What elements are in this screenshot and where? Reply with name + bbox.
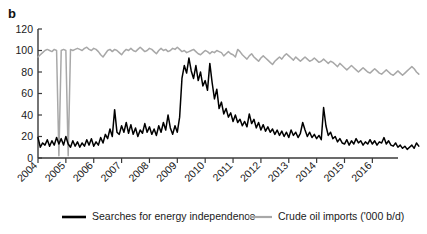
- x-tick-label: 2005: [42, 159, 67, 184]
- line-chart: 020406080100120 200420052006200720082009…: [0, 0, 427, 234]
- x-tick-label: 2004: [14, 159, 39, 184]
- x-tick-label: 2011: [210, 159, 235, 184]
- y-tick-label: 100: [15, 44, 33, 56]
- y-tick-label: 20: [21, 130, 33, 142]
- x-tick-label: 2006: [70, 159, 95, 184]
- x-tick-label: 2012: [237, 159, 262, 184]
- x-tick-label: 2008: [126, 159, 151, 184]
- x-tick-label: 2009: [154, 159, 179, 184]
- figure-panel-b: b 020406080100120 2004200520062007200820…: [0, 0, 427, 234]
- x-tick-label: 2015: [321, 159, 346, 184]
- x-tick-label: 2007: [98, 159, 123, 184]
- x-tick-label: 2016: [349, 159, 374, 184]
- legend-label-searches: Searches for energy independence: [92, 210, 256, 222]
- x-tick-label: 2013: [265, 159, 290, 184]
- y-tick-label: 120: [15, 23, 33, 35]
- y-tick-label: 40: [21, 109, 33, 121]
- x-axis-tick-labels: 2004200520062007200820092010201120122013…: [14, 159, 373, 184]
- y-tick-label: 80: [21, 66, 33, 78]
- chart-legend: Searches for energy independenceCrude oi…: [62, 210, 404, 222]
- series-line-searches-energy-independence: [38, 58, 419, 149]
- y-axis-tick-labels: 020406080100120: [15, 23, 33, 164]
- legend-label-imports: Crude oil imports ('000 b/d): [278, 210, 404, 222]
- series-line-crude-oil-imports: [38, 47, 419, 156]
- x-tick-label: 2010: [182, 159, 207, 184]
- y-tick-label: 60: [21, 87, 33, 99]
- x-tick-label: 2014: [293, 159, 318, 184]
